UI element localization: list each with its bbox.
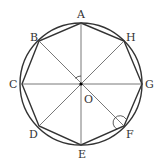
vertex-label-c: C	[9, 78, 17, 91]
center-label: O	[84, 93, 93, 106]
vertex-label-d: D	[29, 128, 38, 141]
angle-mark-O	[75, 76, 81, 78]
vertex-label-a: A	[76, 8, 86, 21]
vertex-label-h: H	[126, 31, 136, 44]
vertex-label-g: G	[145, 78, 154, 91]
vertex-label-e: E	[78, 148, 86, 161]
octagon-diagram: AHGFEDCBO	[0, 0, 162, 164]
vertex-label-f: F	[126, 128, 134, 141]
vertex-label-b: B	[30, 31, 38, 44]
center-point	[79, 82, 82, 85]
